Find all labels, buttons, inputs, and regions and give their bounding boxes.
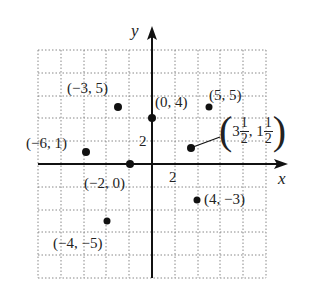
x-axis-label: x (278, 170, 286, 187)
callout-leader-line (193, 137, 220, 147)
point-label-4-neg3: (4, −3) (204, 192, 245, 207)
y-tick-label: 2 (139, 134, 147, 149)
point-label-neg4-neg5: (−4, −5) (53, 236, 102, 251)
point-label-neg3-5: (−3, 5) (67, 81, 108, 96)
y-axis-label: y (131, 22, 139, 39)
point-label-0-4: (0, 4) (155, 95, 188, 110)
x-tick-label: 2 (169, 170, 177, 185)
point-label-5-5: (5, 5) (209, 88, 242, 103)
point-label-mixed-fraction: (312, 112) (219, 111, 286, 151)
point-label-neg6-1: (−6, 1) (26, 136, 67, 151)
point-label-neg2-0: (−2, 0) (84, 176, 125, 191)
